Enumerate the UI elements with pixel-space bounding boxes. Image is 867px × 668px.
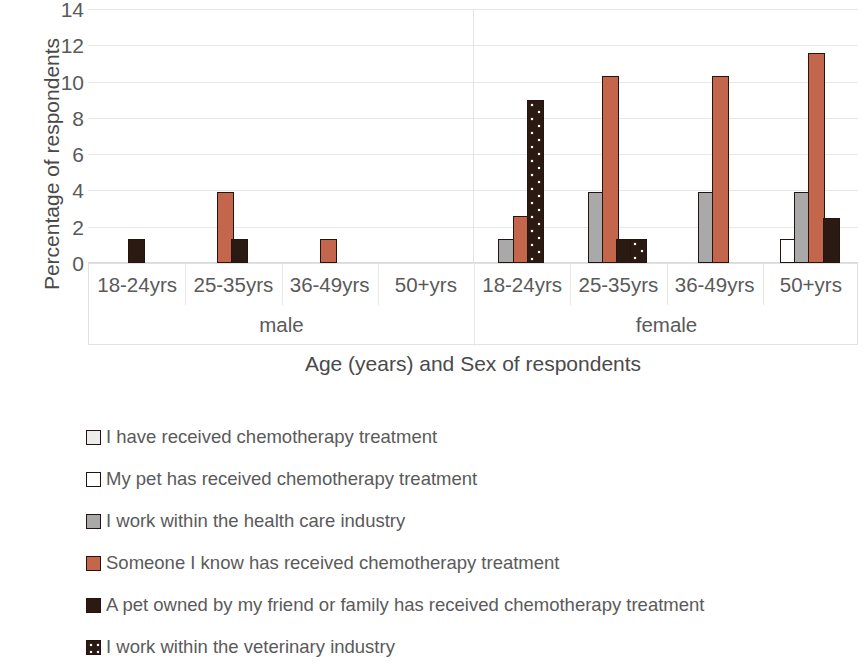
dark-outline-swatch: [86, 430, 101, 445]
legend-label: I have received chemotherapy treatment: [106, 426, 437, 448]
dark-solid-swatch: [86, 598, 101, 613]
legend-label: I work within the health care industry: [106, 510, 405, 532]
y-axis-tick-labels: 02468101214: [22, 0, 84, 262]
bar-group: [88, 9, 184, 263]
bar-5: [128, 239, 145, 263]
legend-label: Someone I know has received chemotherapy…: [106, 552, 560, 574]
y-tick-label: 6: [24, 144, 84, 165]
x-axis-separator: [763, 264, 764, 305]
age-group-label: 18-24yrs: [474, 268, 570, 302]
legend-item[interactable]: I have received chemotherapy treatment: [86, 416, 856, 458]
x-axis-separator: [185, 264, 186, 305]
bar-4: [602, 76, 619, 263]
bar-group: [666, 9, 762, 263]
bar-5: [231, 239, 248, 263]
bar-6: [630, 239, 647, 263]
legend-item[interactable]: I work within the veterinary industry: [86, 626, 856, 668]
chart-legend: I have received chemotherapy treatmentMy…: [86, 416, 856, 668]
sex-group-label: female: [474, 308, 859, 342]
age-group-label: 25-35yrs: [185, 268, 281, 302]
y-tick-label: 14: [24, 0, 84, 20]
x-axis-separator: [667, 264, 668, 305]
bar-group: [377, 9, 473, 263]
plot-area: [88, 9, 858, 263]
y-tick-label: 8: [24, 108, 84, 129]
y-tick-label: 12: [24, 35, 84, 56]
bar-chart: Percentage of respondents 02468101214 18…: [0, 0, 867, 668]
y-tick-label: 2: [24, 217, 84, 238]
age-group-label: 50+yrs: [378, 268, 474, 302]
legend-item[interactable]: My pet has received chemotherapy treatme…: [86, 458, 856, 500]
legend-item[interactable]: Someone I know has received chemotherapy…: [86, 542, 856, 584]
legend-label: A pet owned by my friend or family has r…: [106, 594, 704, 616]
bar-4: [712, 76, 729, 263]
age-group-label: 18-24yrs: [89, 268, 185, 302]
bar-group: [184, 9, 280, 263]
sex-group-label: male: [89, 308, 474, 342]
age-group-label: 36-49yrs: [282, 268, 378, 302]
white-swatch: [86, 472, 101, 487]
x-axis-separator: [282, 264, 283, 305]
legend-item[interactable]: I work within the health care industry: [86, 500, 856, 542]
orange-swatch: [86, 556, 101, 571]
legend-label: My pet has received chemotherapy treatme…: [106, 468, 477, 490]
bar-group: [762, 9, 858, 263]
bar-group: [281, 9, 377, 263]
age-group-label: 25-35yrs: [570, 268, 666, 302]
gray-swatch: [86, 514, 101, 529]
y-tick-label: 4: [24, 180, 84, 201]
y-tick-label: 0: [24, 253, 84, 274]
y-tick-label: 10: [24, 72, 84, 93]
dark-dotted-swatch: [86, 640, 101, 655]
bar-group: [473, 9, 569, 263]
bar-group: [569, 9, 665, 263]
x-axis-separator: [570, 264, 571, 305]
age-group-label: 50+yrs: [763, 268, 859, 302]
bar-4: [320, 239, 337, 263]
x-axis-label-panel: 18-24yrs25-35yrs36-49yrs50+yrs18-24yrs25…: [88, 263, 858, 345]
age-group-label: 36-49yrs: [667, 268, 763, 302]
x-axis-separator: [378, 264, 379, 305]
bar-5: [823, 218, 840, 263]
x-axis-title: Age (years) and Sex of respondents: [88, 352, 858, 382]
legend-item[interactable]: A pet owned by my friend or family has r…: [86, 584, 856, 626]
legend-label: I work within the veterinary industry: [106, 636, 395, 658]
bar-6: [527, 100, 544, 263]
